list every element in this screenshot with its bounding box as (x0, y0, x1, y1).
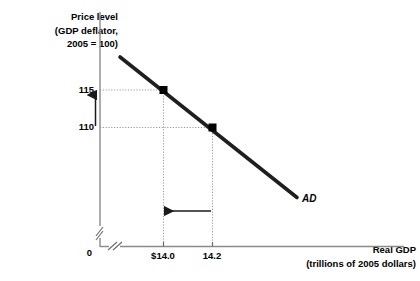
chart-canvas (0, 0, 420, 281)
equilibrium-point-b (209, 124, 217, 132)
ad-curve-figure: Price level(GDP deflator,2005 = 100) Rea… (0, 0, 420, 281)
x-axis-break-mark-1 (108, 242, 117, 250)
equilibrium-point-a (160, 86, 168, 94)
